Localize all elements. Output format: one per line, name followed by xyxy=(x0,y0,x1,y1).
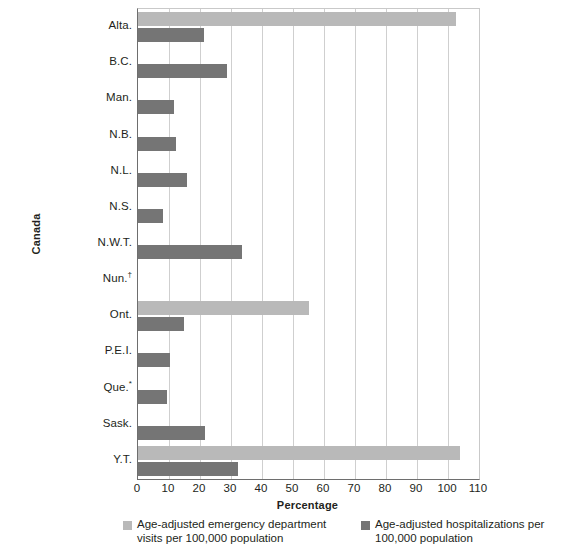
bar-hospitalizations xyxy=(138,462,238,476)
bar-hospitalizations xyxy=(138,64,227,78)
bar-hospitalizations xyxy=(138,173,187,187)
legend-swatch-ed xyxy=(123,521,132,530)
bar-hospitalizations xyxy=(138,137,176,151)
legend-label: Age-adjusted emergency department visits… xyxy=(137,518,347,545)
y-axis-tick-label: Sask. xyxy=(12,417,132,429)
y-axis-tick-label: N.B. xyxy=(12,128,132,140)
y-axis-tick-label: N.W.T. xyxy=(12,236,132,248)
x-axis-tick-label: 110 xyxy=(458,482,498,494)
y-axis-tick-label: Y.T. xyxy=(12,453,132,465)
bar-hospitalizations xyxy=(138,28,204,42)
bar-group xyxy=(138,117,479,153)
bar-group xyxy=(138,81,479,117)
y-axis-tick-label: Alta. xyxy=(12,19,132,31)
y-axis-tick-label: P.E.I. xyxy=(12,344,132,356)
bar-group xyxy=(138,154,479,190)
footnote-marker: † xyxy=(127,270,132,279)
bar-hospitalizations xyxy=(138,209,163,223)
bar-emergency-visits xyxy=(138,446,460,460)
chart-legend: Age-adjusted emergency department visits… xyxy=(123,518,587,546)
bar-group xyxy=(138,371,479,407)
bar-hospitalizations xyxy=(138,426,205,440)
bar-hospitalizations xyxy=(138,245,242,259)
bar-emergency-visits xyxy=(138,301,309,315)
y-axis-tick-label: Nun.† xyxy=(12,272,132,284)
bar-group xyxy=(138,190,479,226)
y-axis-tick-label: Ont. xyxy=(12,308,132,320)
bar-hospitalizations xyxy=(138,317,184,331)
bar-hospitalizations xyxy=(138,353,170,367)
plot-area xyxy=(137,8,480,480)
y-axis-tick-label: B.C. xyxy=(12,55,132,67)
legend-swatch-hosp xyxy=(361,521,370,530)
bar-group xyxy=(138,407,479,443)
bar-hospitalizations xyxy=(138,100,174,114)
y-axis-tick-label: Man. xyxy=(12,91,132,103)
x-axis-tick-labels: 0102030405060708090100110 xyxy=(0,482,587,500)
legend-item: Age-adjusted emergency department visits… xyxy=(123,518,347,546)
bar-group xyxy=(138,298,479,334)
y-axis-tick-label: Que.* xyxy=(12,381,132,393)
bar-group xyxy=(138,9,479,45)
footnote-marker: * xyxy=(129,379,132,388)
y-axis-tick-label: N.S. xyxy=(12,200,132,212)
legend-label: Age-adjusted hospitalizations per 100,00… xyxy=(375,518,585,545)
bar-group xyxy=(138,443,479,479)
legend-item: Age-adjusted hospitalizations per 100,00… xyxy=(361,518,585,546)
bar-group xyxy=(138,45,479,81)
y-axis-tick-labels: Alta.B.C.Man.N.B.N.L.N.S.N.W.T.Nun.†Ont.… xyxy=(8,8,132,478)
bar-group xyxy=(138,334,479,370)
bar-hospitalizations xyxy=(138,390,167,404)
bar-group xyxy=(138,226,479,262)
bar-emergency-visits xyxy=(138,12,456,26)
bar-group xyxy=(138,262,479,298)
y-axis-tick-label: N.L. xyxy=(12,164,132,176)
x-axis-title: Percentage xyxy=(137,499,478,511)
